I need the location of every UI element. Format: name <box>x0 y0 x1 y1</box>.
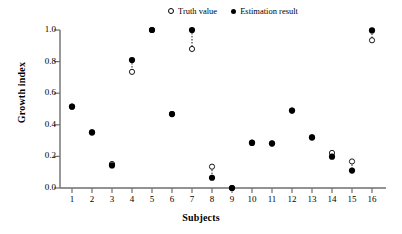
y-axis-title: Growth index <box>16 43 27 143</box>
x-tick-label: 4 <box>122 195 142 204</box>
growth-index-scatter-figure: Truth value Estimation result <box>0 0 402 234</box>
x-tick-label: 10 <box>242 195 262 204</box>
x-tick-label: 16 <box>362 195 382 204</box>
x-tick-label: 3 <box>102 195 122 204</box>
x-tick-label: 9 <box>222 195 242 204</box>
x-axis-title: Subjects <box>0 212 402 223</box>
x-tick-label: 15 <box>342 195 362 204</box>
x-tick-label: 13 <box>302 195 322 204</box>
x-tick-label: 14 <box>322 195 342 204</box>
x-tick-label: 2 <box>82 195 102 204</box>
x-tick-label: 12 <box>282 195 302 204</box>
x-tick-label: 1 <box>62 195 82 204</box>
x-tick-label: 8 <box>202 195 222 204</box>
x-tick-label: 5 <box>142 195 162 204</box>
x-tick-label: 7 <box>182 195 202 204</box>
x-tick-label-layer: 12345678910111213141516 <box>0 0 402 234</box>
x-tick-label: 11 <box>262 195 282 204</box>
x-tick-label: 6 <box>162 195 182 204</box>
